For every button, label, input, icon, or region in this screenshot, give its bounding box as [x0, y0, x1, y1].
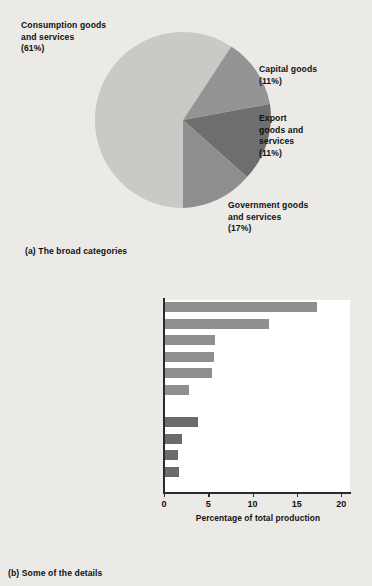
x-tick-10	[253, 492, 254, 497]
bar-health	[164, 302, 317, 312]
pie-chart-svg	[95, 32, 271, 208]
bar-construction	[164, 417, 198, 427]
pie-label-capital: Capital goods (11%)	[259, 64, 317, 87]
pie-label-export: Export goods and services (11%)	[259, 113, 303, 159]
x-tick-label-20: 20	[336, 499, 346, 509]
x-tick-label-15: 15	[292, 499, 302, 509]
x-tick-label-5: 5	[206, 499, 211, 509]
y-axis-line	[163, 298, 165, 494]
x-axis-line	[163, 492, 351, 494]
bar-wholesale-trades	[164, 368, 212, 378]
bar-chemicals	[164, 467, 179, 477]
pie-label-consumption: Consumption goods and services (61%)	[21, 20, 106, 55]
figure-root: Consumption goods and services (61%) Cap…	[0, 0, 372, 586]
pie-label-government: Government goods and services (17%)	[228, 200, 308, 235]
bar-real-estate	[164, 319, 269, 329]
bar-retail-trades	[164, 352, 214, 362]
x-tick-15	[297, 492, 298, 497]
x-tick-20	[341, 492, 342, 497]
panel-a-pie-chart: Consumption goods and services (61%) Cap…	[0, 0, 372, 268]
bar-utilities	[164, 434, 182, 444]
x-tick-5	[208, 492, 209, 497]
caption-panel-b: (b) Some of the details	[8, 568, 102, 578]
caption-panel-a: (a) The broad categories	[25, 246, 127, 256]
x-tick-label-10: 10	[248, 499, 258, 509]
x-tick-label-0: 0	[161, 499, 166, 509]
panel-b-bar-chart: ServicesHealthReal estateEducationRetail…	[0, 268, 372, 586]
bar-food	[164, 450, 178, 460]
x-tick-0	[164, 492, 165, 497]
bar-education	[164, 335, 215, 345]
bar-chart-plot-area	[164, 300, 350, 492]
pie-chart	[95, 32, 271, 208]
bar-transportation-and-storage	[164, 385, 189, 395]
x-axis-title: Percentage of total production	[164, 513, 352, 523]
